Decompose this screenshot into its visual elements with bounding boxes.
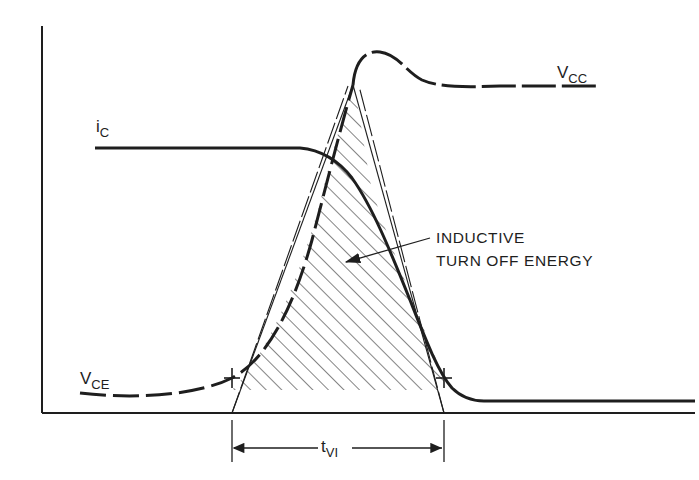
tvi-label: tVI [321, 437, 338, 460]
vce-label: VCE [80, 369, 110, 392]
ic-label: iC [96, 117, 109, 140]
annotation-line-2: TURN OFF ENERGY [436, 252, 593, 269]
annotation-line-1: INDUCTIVE [436, 229, 525, 246]
vcc-label: VCC [557, 63, 587, 86]
turn-off-waveform-diagram: VCC iC VCE tVI INDUCTIVE TURN OFF ENERGY [0, 0, 699, 480]
